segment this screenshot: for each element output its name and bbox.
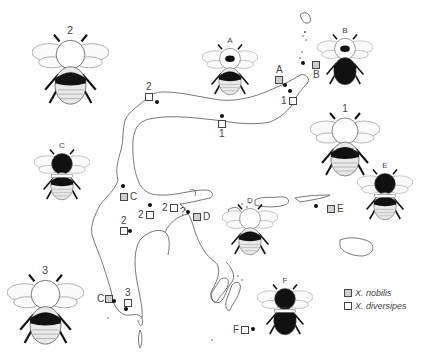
marker-label: E bbox=[337, 204, 344, 214]
diversipes-marker bbox=[218, 120, 226, 128]
bee-label: F bbox=[257, 276, 313, 285]
grey-square-icon bbox=[344, 289, 352, 297]
legend-item-nobilis: X. nobilis bbox=[344, 286, 407, 299]
bee-label: 1 bbox=[310, 103, 380, 114]
bee-illustration: 2 bbox=[32, 26, 109, 118]
bee-icon bbox=[34, 143, 90, 207]
bee-illustration: 3 bbox=[7, 266, 84, 356]
marker-label: C bbox=[130, 192, 137, 202]
bee-illustration: D bbox=[222, 198, 278, 266]
marker-label: 2 bbox=[162, 203, 168, 213]
marker-label: 1 bbox=[219, 129, 225, 139]
diversipes-marker bbox=[170, 204, 178, 212]
collection-dot bbox=[112, 299, 116, 303]
marker-label: B bbox=[313, 70, 320, 80]
nobilis-marker bbox=[312, 61, 320, 69]
bee-label: E bbox=[357, 161, 413, 170]
bee-label: D bbox=[222, 196, 278, 205]
collection-dot bbox=[128, 229, 132, 233]
bee-icon bbox=[202, 38, 258, 102]
legend-label: X. diversipes bbox=[355, 301, 407, 311]
white-square-icon bbox=[344, 302, 352, 310]
bee-label: B bbox=[317, 26, 373, 35]
collection-dot bbox=[155, 100, 159, 104]
bee-label: 2 bbox=[32, 24, 109, 36]
bee-icon bbox=[257, 278, 313, 342]
marker-label: F bbox=[233, 325, 239, 335]
bee-illustration: C bbox=[34, 143, 90, 211]
collection-dot bbox=[283, 83, 287, 87]
bee-icon bbox=[357, 163, 413, 227]
marker-label: 1 bbox=[281, 96, 287, 106]
uncertain-mark: ? bbox=[180, 207, 186, 217]
collection-dot bbox=[314, 204, 318, 208]
diversipes-marker bbox=[120, 227, 128, 235]
diversipes-marker bbox=[241, 326, 249, 334]
bee-illustration: B bbox=[317, 28, 373, 96]
bee-label: A bbox=[202, 36, 258, 45]
marker-label: A bbox=[276, 65, 283, 75]
diversipes-marker bbox=[145, 93, 153, 101]
bee-illustration: A bbox=[202, 38, 258, 106]
bee-label: 3 bbox=[7, 264, 84, 276]
bee-icon bbox=[7, 266, 84, 354]
collection-dot bbox=[220, 114, 224, 118]
legend-label: X. nobilis bbox=[355, 288, 392, 298]
legend-item-diversipes: X. diversipes bbox=[344, 299, 407, 312]
nobilis-marker bbox=[193, 213, 201, 221]
collection-dot bbox=[186, 210, 190, 214]
diversipes-marker bbox=[146, 211, 154, 219]
collection-dot bbox=[124, 307, 128, 311]
collection-dot bbox=[251, 327, 255, 331]
diversipes-marker bbox=[289, 97, 297, 105]
bee-illustration: F bbox=[257, 278, 313, 346]
bee-icon bbox=[222, 198, 278, 262]
nobilis-marker bbox=[120, 193, 128, 201]
marker-label: C bbox=[97, 294, 104, 304]
diversipes-marker bbox=[124, 299, 132, 307]
legend: X. nobilis X. diversipes bbox=[344, 286, 407, 312]
bee-icon bbox=[32, 26, 109, 114]
marker-label: 2 bbox=[121, 216, 127, 226]
bee-illustration: E bbox=[357, 163, 413, 231]
marker-label: D bbox=[203, 212, 210, 222]
marker-label: 3 bbox=[125, 288, 131, 298]
marker-label: 2 bbox=[146, 82, 152, 92]
bee-icon bbox=[317, 28, 373, 92]
collection-dot bbox=[288, 89, 292, 93]
nobilis-marker bbox=[327, 205, 335, 213]
bee-label: C bbox=[34, 141, 90, 150]
collection-dot bbox=[148, 203, 152, 207]
nobilis-marker bbox=[275, 76, 283, 84]
collection-dot bbox=[121, 184, 125, 188]
collection-dot bbox=[301, 61, 305, 65]
marker-label: 2 bbox=[138, 210, 144, 220]
